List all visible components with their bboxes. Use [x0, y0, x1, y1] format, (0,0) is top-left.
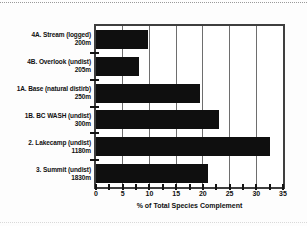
gridline-10 [149, 26, 150, 187]
species-complement-bar-chart: 4A. Stream (logged)200m4B. Overlook (und… [0, 0, 307, 226]
x-tick-label: 5 [113, 190, 133, 197]
x-tick-label: 35 [273, 190, 293, 197]
site-elevation: 300m [0, 120, 91, 128]
site-elevation: 200m [0, 39, 91, 47]
page: 4A. Stream (logged)200m4B. Overlook (und… [0, 0, 307, 226]
site-elevation: 250m [0, 93, 91, 101]
x-axis-tick [242, 184, 244, 190]
gridline-30 [256, 26, 257, 187]
site-name: 3. Summit (undist) [0, 166, 91, 174]
y-axis-tick [90, 132, 99, 134]
site-name: 4B. Overlook (undist) [0, 58, 91, 66]
x-tick-label: 10 [139, 190, 159, 197]
site-elevation: 1830m [0, 174, 91, 182]
y-axis-tick [90, 79, 99, 81]
x-axis-title: % of Total Species Complement [96, 202, 283, 209]
x-tick-label: 25 [220, 190, 240, 197]
bar-4 [96, 110, 219, 129]
x-tick-label: 20 [193, 190, 213, 197]
site-name: 4A. Stream (logged) [0, 31, 91, 39]
y-axis-tick [90, 52, 99, 54]
x-axis-tick [189, 184, 191, 190]
x-axis-tick [269, 184, 271, 190]
site-elevation: 205m [0, 66, 91, 74]
bar-2 [96, 57, 139, 76]
category-label: 3. Summit (undist)1830m [0, 166, 91, 182]
gridline-15 [176, 26, 177, 187]
bar-5 [96, 137, 270, 156]
category-label: 1A. Base (natural distirb)250m [0, 85, 91, 101]
x-axis-tick [162, 184, 164, 190]
bar-6 [96, 164, 208, 183]
x-tick-label: 15 [166, 190, 186, 197]
site-name: 2. Lakecamp (undist) [0, 139, 91, 147]
site-name: 1A. Base (natural distirb) [0, 85, 91, 93]
category-label: 4B. Overlook (undist)205m [0, 58, 91, 74]
x-axis-tick [135, 184, 137, 190]
bottom-dotted-divider [0, 222, 307, 223]
category-label: 1B. BC WASH (undist)300m [0, 112, 91, 128]
bar-1 [96, 30, 148, 49]
gridline-5 [122, 26, 123, 187]
bar-3 [96, 84, 200, 103]
x-axis-tick [215, 184, 217, 190]
x-tick-label: 0 [86, 190, 106, 197]
gridline-20 [202, 26, 203, 187]
gridline-25 [229, 26, 230, 187]
x-axis-tick [108, 184, 110, 190]
x-tick-label: 30 [246, 190, 266, 197]
y-axis-tick [90, 106, 99, 108]
site-elevation: 1180m [0, 147, 91, 155]
site-name: 1B. BC WASH (undist) [0, 112, 91, 120]
category-label: 2. Lakecamp (undist)1180m [0, 139, 91, 155]
y-axis-tick [90, 159, 99, 161]
plot-area [94, 24, 285, 189]
category-label: 4A. Stream (logged)200m [0, 31, 91, 47]
